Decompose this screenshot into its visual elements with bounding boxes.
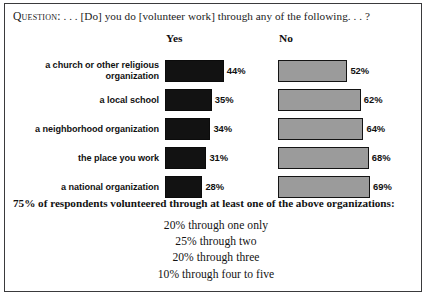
- bar-row: the place you work31%68%: [5, 147, 423, 169]
- bar-value-no: 69%: [373, 176, 392, 198]
- bar-value-yes: 35%: [215, 89, 234, 111]
- bar-row-label: the place you work: [9, 153, 159, 164]
- bar-yes: [165, 176, 202, 198]
- bar-no: [278, 176, 370, 198]
- bar-yes: [165, 60, 224, 82]
- bar-yes: [165, 118, 210, 140]
- bar-value-yes: 28%: [205, 176, 224, 198]
- bar-value-no: 68%: [372, 147, 391, 169]
- bar-row-label: a church or other religious organization: [9, 60, 159, 81]
- breakdown-line: 25% through two: [14, 234, 418, 250]
- bar-row-label: a local school: [9, 95, 159, 106]
- bar-row-label: a national organization: [9, 182, 159, 193]
- bar-row: a neighborhood organization34%64%: [5, 118, 423, 140]
- bar-yes: [165, 147, 206, 169]
- chart-figure: Question: . . . [Do] you do [volunteer w…: [4, 3, 422, 292]
- bar-value-yes: 44%: [227, 60, 246, 82]
- bar-no: [278, 118, 363, 140]
- bar-row: a national organization28%69%: [5, 176, 423, 198]
- bar-value-no: 52%: [350, 60, 369, 82]
- breakdown-list: 20% through one only 25% through two 20%…: [14, 218, 418, 283]
- bar-no: [278, 89, 361, 111]
- bar-row: a local school35%62%: [5, 89, 423, 111]
- bar-no: [278, 147, 369, 169]
- bar-row-label: a neighborhood organization: [9, 124, 159, 135]
- bar-value-yes: 31%: [209, 147, 228, 169]
- breakdown-line: 20% through three: [14, 250, 418, 266]
- bar-no: [278, 60, 347, 82]
- bar-value-no: 62%: [364, 89, 383, 111]
- bar-value-yes: 34%: [213, 118, 232, 140]
- bar-row: a church or other religious organization…: [5, 60, 423, 82]
- breakdown-line: 10% through four to five: [14, 267, 418, 283]
- bar-value-no: 64%: [366, 118, 385, 140]
- breakdown-line: 20% through one only: [14, 218, 418, 234]
- summary-line: 75% of respondents volunteered through a…: [13, 197, 417, 209]
- bar-yes: [165, 89, 212, 111]
